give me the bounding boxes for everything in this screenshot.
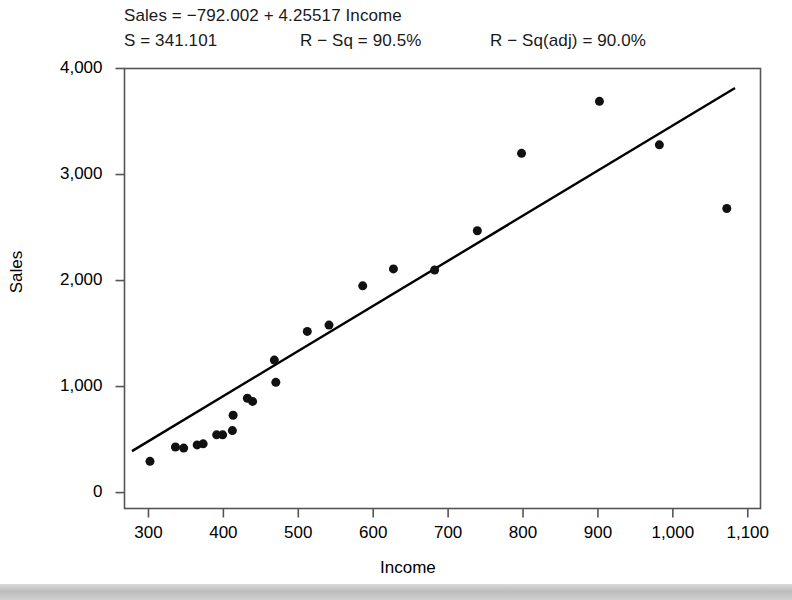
y-tick-label: 0 [33, 482, 103, 502]
data-point [325, 321, 334, 330]
y-tick-label: 2,000 [33, 270, 103, 290]
data-point [303, 327, 312, 336]
data-point [229, 411, 238, 420]
bottom-decorative-band [0, 584, 792, 600]
x-tick-label: 1,100 [708, 523, 788, 543]
x-axis-title: Income [380, 558, 436, 578]
data-point [358, 281, 367, 290]
y-tick-label: 3,000 [33, 164, 103, 184]
x-tick-label: 500 [258, 523, 338, 543]
data-point [179, 444, 188, 453]
standard-error-text: S = 341.101 [124, 31, 217, 51]
y-tick-label: 4,000 [33, 58, 103, 78]
y-axis-title: Sales [7, 242, 27, 302]
data-point [271, 378, 280, 387]
data-point [722, 204, 731, 213]
r-squared-adjusted-text: R − Sq(adj) = 90.0% [490, 31, 646, 51]
data-point [595, 97, 604, 106]
data-point [517, 149, 526, 158]
r-squared-text: R − Sq = 90.5% [300, 31, 421, 51]
scatter-plot-figure: Sales = −792.002 + 4.25517 Income S = 34… [0, 0, 792, 600]
x-tick-label: 800 [483, 523, 563, 543]
data-point [248, 397, 257, 406]
data-point [171, 443, 180, 452]
y-tick-label: 1,000 [33, 376, 103, 396]
regression-equation-text: Sales = −792.002 + 4.25517 Income [124, 6, 402, 26]
data-point [228, 426, 237, 435]
data-point [473, 226, 482, 235]
data-point [389, 264, 398, 273]
x-tick-label: 1,000 [633, 523, 713, 543]
x-tick-label: 600 [333, 523, 413, 543]
data-point [430, 265, 439, 274]
y-axis-ticks [116, 69, 125, 493]
data-points [145, 97, 731, 466]
plot-area [0, 0, 792, 600]
x-tick-label: 300 [108, 523, 188, 543]
data-point [655, 140, 664, 149]
data-point [218, 430, 227, 439]
x-tick-label: 700 [408, 523, 488, 543]
data-point [199, 439, 208, 448]
x-axis-ticks [148, 509, 747, 518]
x-tick-label: 900 [558, 523, 638, 543]
data-point [270, 356, 279, 365]
data-point [145, 457, 154, 466]
x-tick-label: 400 [183, 523, 263, 543]
plot-frame [125, 69, 761, 509]
